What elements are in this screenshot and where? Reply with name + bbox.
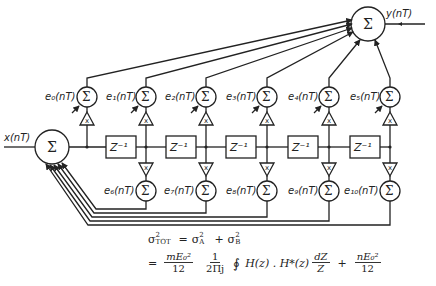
error-label-e10: e₁₀(nT) xyxy=(344,185,378,196)
multiplier-glyph: x xyxy=(144,164,148,172)
numerator: mE₀² xyxy=(164,252,193,263)
multiplier-glyph: x xyxy=(388,164,392,172)
error-label-e3: e₃(nT) xyxy=(226,91,256,102)
delay-label: Z⁻¹ xyxy=(109,141,128,154)
sigma-glyph: Σ xyxy=(141,184,149,198)
multiplier-glyph: x xyxy=(327,164,331,172)
error-label-e8: e₈(nT) xyxy=(226,185,256,196)
sigma-glyph: Σ xyxy=(385,184,393,198)
fraction-n: nE₀²12 xyxy=(355,252,381,274)
delay-label: Z⁻¹ xyxy=(229,141,248,154)
equals: = xyxy=(148,257,157,270)
formula-line-1: σ2TOT = σ2A + σ2B xyxy=(148,232,240,246)
sub: TOT xyxy=(156,239,171,246)
delay-label: Z⁻¹ xyxy=(291,141,310,154)
sigma-glyph: Σ xyxy=(324,184,332,198)
sigma-glyph: Σ xyxy=(262,90,270,104)
multiplier-glyph: x xyxy=(265,164,269,172)
delay-label: Z⁻¹ xyxy=(353,141,372,154)
delay-label: Z⁻¹ xyxy=(169,141,188,154)
error-label-e1: e₁(nT) xyxy=(106,91,136,102)
input-sigma: Σ xyxy=(47,139,57,155)
multiplier-glyph: x xyxy=(204,117,208,125)
equals: = xyxy=(179,233,188,246)
formula-line-2: = mE₀²12 12Πj ∮ H(z) . H*(z) dZZ + nE₀²1… xyxy=(148,252,384,274)
numerator: 1 xyxy=(210,252,220,263)
sub: B xyxy=(235,239,240,246)
input-label: x(nT) xyxy=(3,132,30,143)
sigma-b: σ xyxy=(228,233,236,246)
denominator: 2Πj xyxy=(206,263,224,274)
plus: + xyxy=(338,257,347,270)
multiplier-glyph: x xyxy=(204,164,208,172)
denominator: 12 xyxy=(361,263,374,274)
multiplier-glyph: x xyxy=(85,117,89,125)
sigma-glyph: Σ xyxy=(141,90,149,104)
numerator: dZ xyxy=(312,252,329,263)
fraction-m: mE₀²12 xyxy=(164,252,193,274)
sigma-glyph: Σ xyxy=(82,90,90,104)
denominator: Z xyxy=(317,263,324,274)
error-label-e9: e₉(nT) xyxy=(288,185,318,196)
error-label-e0: e₀(nT) xyxy=(45,91,75,102)
error-label-e5: e₅(nT) xyxy=(350,91,380,102)
fraction-dz-z: dZZ xyxy=(312,252,329,274)
sigma-glyph: Σ xyxy=(324,90,332,104)
plus: + xyxy=(214,233,223,246)
noise-variance-formula: σ2TOT = σ2A + σ2B = mE₀²12 12Πj ∮ H(z) .… xyxy=(148,232,436,286)
multiplier-glyph: x xyxy=(388,117,392,125)
sigma-glyph: Σ xyxy=(385,90,393,104)
error-label-e4: e₄(nT) xyxy=(288,91,318,102)
multiplier-glyph: x xyxy=(144,117,148,125)
output-sigma: Σ xyxy=(363,16,373,32)
contour-integral: ∮ xyxy=(233,256,240,271)
sigma-tot: σ xyxy=(148,233,156,246)
fraction-2pij: 12Πj xyxy=(206,252,224,274)
output-label: y(nT) xyxy=(385,8,412,19)
error-label-e6: e₆(nT) xyxy=(104,185,134,196)
multiplier-glyph: x xyxy=(327,117,331,125)
integrand: H(z) . H*(z) xyxy=(245,257,309,270)
sigma-glyph: Σ xyxy=(262,184,270,198)
sub: A xyxy=(199,239,204,246)
error-label-e7: e₇(nT) xyxy=(164,185,194,196)
error-label-e2: e₂(nT) xyxy=(165,91,195,102)
numerator: nE₀² xyxy=(355,252,381,263)
sigma-glyph: Σ xyxy=(201,184,209,198)
sigma-glyph: Σ xyxy=(201,90,209,104)
multiplier-glyph: x xyxy=(265,117,269,125)
denominator: 12 xyxy=(172,263,185,274)
